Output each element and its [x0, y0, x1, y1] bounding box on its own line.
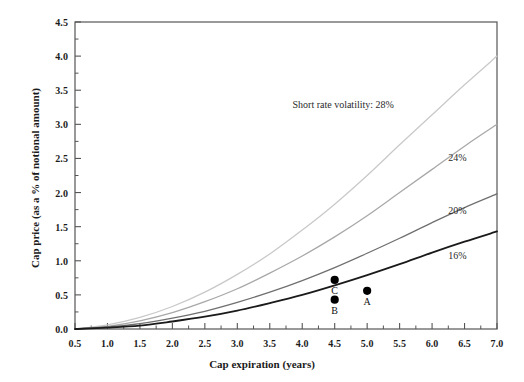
x-tick-label: 0.5 — [69, 338, 82, 349]
y-tick-label: 4.5 — [30, 17, 68, 28]
x-axis-title: Cap expiration (years) — [0, 358, 524, 370]
x-tick-label: 5.5 — [393, 338, 406, 349]
x-tick-label: 4.5 — [328, 338, 341, 349]
x-tick-label: 6.5 — [458, 338, 471, 349]
data-curves — [75, 56, 497, 329]
series-annotation-20pct: 20% — [448, 205, 466, 216]
chart-figure: 0.00.51.01.52.02.53.03.54.04.5 0.51.01.5… — [0, 0, 524, 382]
x-tick-label: 6.0 — [426, 338, 439, 349]
x-tick-label: 3.0 — [231, 338, 244, 349]
x-tick-label: 1.5 — [134, 338, 147, 349]
series-annotation-16pct: 16% — [448, 250, 466, 261]
x-tick-label: 4.0 — [296, 338, 309, 349]
x-tick-label: 1.0 — [101, 338, 114, 349]
x-tick-label: 3.5 — [263, 338, 276, 349]
series-annotation-28pct: Short rate volatility: 28% — [292, 99, 393, 110]
y-axis-title: Cap price (as a % of notional amount) — [29, 28, 41, 328]
x-tick-label: 2.5 — [198, 338, 211, 349]
data-point-label-c: C — [331, 285, 338, 296]
chart-plot-area — [0, 0, 524, 382]
axis-ticks — [75, 22, 497, 329]
plot-frame — [75, 22, 497, 329]
x-tick-label: 7.0 — [491, 338, 504, 349]
x-tick-label: 2.0 — [166, 338, 179, 349]
data-point-label-a: A — [364, 296, 371, 307]
series-annotation-24pct: 24% — [448, 152, 466, 163]
data-point-label-b: B — [331, 305, 338, 316]
x-tick-label: 5.0 — [361, 338, 374, 349]
